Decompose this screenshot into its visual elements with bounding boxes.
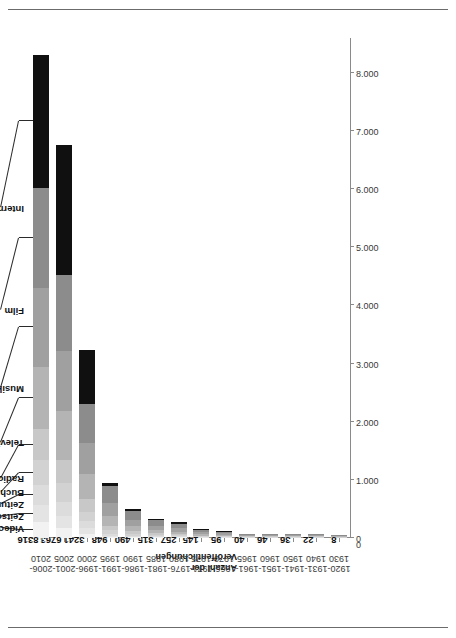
bar-segment[interactable] xyxy=(171,528,187,531)
bar-segment[interactable] xyxy=(56,145,72,275)
bar-segment[interactable] xyxy=(79,528,95,534)
category-tick xyxy=(179,538,180,542)
bar-value-label: 8316 xyxy=(18,535,39,546)
bar-segment[interactable] xyxy=(148,530,164,533)
stacked-bar[interactable] xyxy=(56,145,72,538)
value-axis-tick xyxy=(350,479,354,480)
bar-segment[interactable] xyxy=(125,531,141,533)
bar-row: 948 xyxy=(102,38,118,538)
bar-segment[interactable] xyxy=(56,483,72,502)
legend-leader-connector xyxy=(1,398,20,442)
bar-segment[interactable] xyxy=(148,519,164,520)
category-tick xyxy=(270,538,271,542)
bar-segment[interactable] xyxy=(216,532,232,534)
bar-segment[interactable] xyxy=(102,530,118,533)
legend-label-film: Film xyxy=(5,306,25,317)
category-tick xyxy=(133,538,134,542)
bar-segment[interactable] xyxy=(56,460,72,484)
bar-segment[interactable] xyxy=(33,367,49,430)
bar-segment[interactable] xyxy=(79,499,95,512)
category-tick xyxy=(87,538,88,542)
category-tick xyxy=(41,538,42,542)
category-tick xyxy=(110,538,111,542)
legend-label-zeitschrift: Zeitschrift xyxy=(0,512,24,523)
bar-segment[interactable] xyxy=(125,520,141,526)
bar-segment[interactable] xyxy=(79,404,95,444)
legend-label-television: Television xyxy=(0,438,24,449)
rotated-figure: Anzahl der Veröffentlichungen 01.0002.00… xyxy=(16,14,440,624)
value-axis-tick-label: 6.000 xyxy=(356,185,379,195)
bar-segment[interactable] xyxy=(33,429,49,460)
bar-segment[interactable] xyxy=(33,485,49,505)
bar-segment[interactable] xyxy=(216,531,232,532)
stacked-bar[interactable] xyxy=(102,483,118,538)
bar-row: 22 xyxy=(308,38,324,538)
bar-segment[interactable] xyxy=(56,275,72,351)
bar-segment[interactable] xyxy=(79,512,95,522)
legend-leader-line xyxy=(19,397,33,398)
category-tick xyxy=(156,538,157,542)
legend-leader-line xyxy=(19,120,33,121)
value-axis-tick-label: 4.000 xyxy=(356,301,379,311)
bar-segment[interactable] xyxy=(79,521,95,528)
bar-segment[interactable] xyxy=(79,443,95,474)
bar-segment[interactable] xyxy=(193,529,209,530)
category-tick xyxy=(247,538,248,542)
bar-value-label: 36 xyxy=(280,535,291,546)
figure-page: Anzahl der Veröffentlichungen 01.0002.00… xyxy=(0,0,456,638)
bar-segment[interactable] xyxy=(56,351,72,411)
bar-segment[interactable] xyxy=(125,526,141,531)
bar-segment[interactable] xyxy=(102,483,118,486)
stacked-bar[interactable] xyxy=(79,350,95,538)
bar-segment[interactable] xyxy=(148,520,164,526)
bar-segment[interactable] xyxy=(125,509,141,511)
bar-row: 95 xyxy=(216,38,232,538)
bar-segment[interactable] xyxy=(33,55,49,189)
legend-label-videospiele: Videospiele xyxy=(0,524,24,535)
bar-row: 257 xyxy=(171,38,187,538)
bar-segment[interactable] xyxy=(79,350,95,404)
legend-leader-connector xyxy=(0,327,19,388)
value-axis-tick xyxy=(350,537,354,538)
legend-leader-line xyxy=(19,472,33,473)
category-tick xyxy=(316,538,317,542)
value-axis-tick-label: 2.000 xyxy=(356,418,379,428)
bar-segment[interactable] xyxy=(56,516,72,528)
bar-row: 145 xyxy=(193,38,209,538)
bar-segment[interactable] xyxy=(33,505,49,522)
bar-segment[interactable] xyxy=(193,530,209,533)
legend-leader-line xyxy=(19,237,33,238)
value-axis-tick-label: 1.000 xyxy=(356,476,379,486)
value-axis-tick-label: 7.000 xyxy=(356,127,379,137)
bar-segment[interactable] xyxy=(148,526,164,530)
bar-segment[interactable] xyxy=(102,526,118,531)
bar-segment[interactable] xyxy=(33,188,49,288)
bar-segment[interactable] xyxy=(171,522,187,523)
value-axis-tick xyxy=(350,130,354,131)
legend-label-zeitung: Zeitung xyxy=(0,500,24,511)
bar-segment[interactable] xyxy=(56,502,72,516)
bar-segment[interactable] xyxy=(33,460,49,485)
bar-row: 40 xyxy=(239,38,255,538)
bar-segment[interactable] xyxy=(79,474,95,499)
bar-value-label: 95 xyxy=(211,535,222,546)
bar-segment[interactable] xyxy=(125,511,141,520)
bar-segment[interactable] xyxy=(56,411,72,460)
bar-segment[interactable] xyxy=(102,516,118,526)
legend-label-buch: Buch xyxy=(1,488,25,499)
bar-segment[interactable] xyxy=(171,524,187,529)
bar-segment[interactable] xyxy=(33,288,49,366)
bar-row: 36 xyxy=(285,38,301,538)
bar-segment[interactable] xyxy=(102,503,118,516)
value-axis-tick xyxy=(350,304,354,305)
bar-row: 6763 xyxy=(56,38,72,538)
legend-label-radio: Radio xyxy=(0,474,24,485)
value-axis-tick xyxy=(350,72,354,73)
legend-label-musik: Musik xyxy=(0,384,24,395)
bar-segment[interactable] xyxy=(102,486,118,503)
value-axis-tick xyxy=(350,188,354,189)
category-tick xyxy=(64,538,65,542)
bar-row: 3241 xyxy=(79,38,95,538)
legend-leader-connector xyxy=(0,238,19,310)
stacked-bar[interactable] xyxy=(33,55,49,538)
